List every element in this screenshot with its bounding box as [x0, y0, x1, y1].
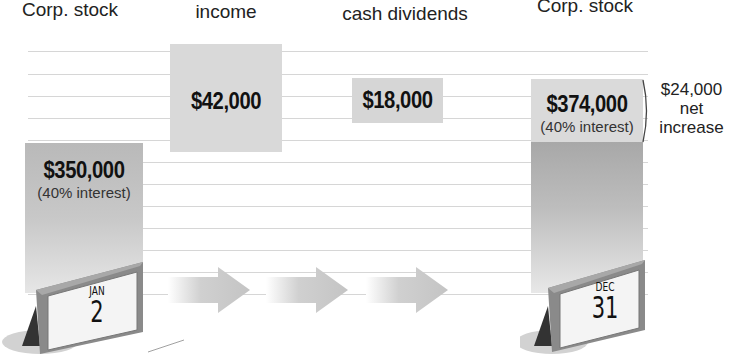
dividends-amount: $18,000 — [357, 87, 437, 114]
arrow-right-icon — [168, 265, 252, 315]
calendar-end-date: DEC 31 — [585, 280, 625, 322]
income-amount: $42,000 — [177, 88, 276, 115]
end-balance-amount: $374,000 — [538, 91, 637, 118]
net-change-label-increase: increase — [650, 118, 733, 137]
header-end-stock: Corp. stock — [510, 0, 660, 16]
calendar-start-date: JAN 2 — [82, 284, 112, 326]
dividends-box: $18,000 — [352, 78, 443, 123]
decorative-line — [148, 338, 188, 354]
start-balance-amount: $350,000 — [32, 157, 136, 184]
net-change-note: $24,000 net increase — [650, 80, 733, 137]
arrow-right-icon — [366, 265, 450, 315]
calendar-start-day: 2 — [87, 298, 108, 326]
start-balance-note: (40% interest) — [25, 184, 143, 201]
end-balance-note: (40% interest) — [531, 118, 643, 135]
calendar-end-day: 31 — [591, 294, 619, 322]
net-change-amount: $24,000 — [650, 80, 733, 99]
header-income: income — [170, 2, 282, 22]
income-box: $42,000 — [170, 44, 282, 152]
header-dividends: cash dividends — [320, 4, 490, 24]
arrow-right-icon — [266, 265, 350, 315]
header-start-stock: Corp. stock — [0, 0, 140, 20]
net-change-label-net: net — [650, 99, 733, 118]
calendar-icon-start — [0, 250, 150, 354]
